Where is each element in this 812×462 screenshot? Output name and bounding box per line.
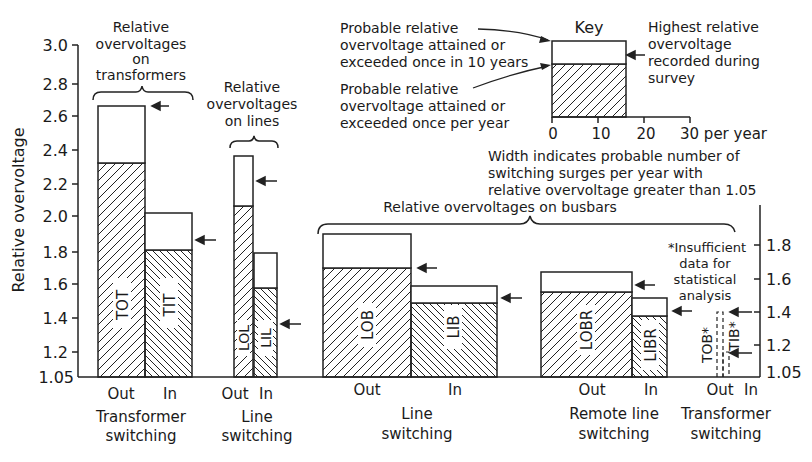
brace-busbars bbox=[318, 216, 735, 234]
width-note: Width indicates probable number of switc… bbox=[488, 148, 757, 198]
svg-text:relative overvoltage greater t: relative overvoltage greater than 1.05 bbox=[488, 182, 757, 198]
svg-text:Out: Out bbox=[578, 381, 605, 399]
svg-text:In: In bbox=[448, 381, 462, 399]
y-axis-label: Relative overvoltage bbox=[9, 127, 28, 292]
brace-lines bbox=[230, 136, 278, 148]
svg-text:3.0: 3.0 bbox=[43, 36, 68, 55]
svg-text:Out: Out bbox=[107, 385, 134, 403]
svg-text:TIT: TIT bbox=[161, 293, 179, 318]
svg-text:2.6: 2.6 bbox=[43, 107, 68, 126]
left-axis-ticks: 3.0 2.8 2.6 2.4 2.2 2.0 1.8 1.6 1.4 1.2 … bbox=[38, 36, 74, 387]
svg-text:Out: Out bbox=[706, 381, 733, 399]
bar-TOB: TOB* bbox=[699, 312, 723, 377]
svg-text:survey: survey bbox=[648, 70, 695, 86]
bar-LIBR: LIBR bbox=[632, 298, 692, 377]
brace-transformers bbox=[93, 86, 193, 100]
svg-text:Out: Out bbox=[221, 385, 248, 403]
svg-text:Line: Line bbox=[401, 405, 432, 423]
svg-text:Remote line: Remote line bbox=[569, 405, 659, 423]
svg-text:LOB: LOB bbox=[359, 310, 377, 340]
svg-text:TOT: TOT bbox=[114, 289, 132, 321]
svg-text:1.05: 1.05 bbox=[38, 368, 74, 387]
svg-text:1.8: 1.8 bbox=[43, 243, 68, 262]
right-axis-ticks: 1.8 1.6 1.4 1.2 1.05 bbox=[766, 236, 802, 382]
svg-text:Line: Line bbox=[241, 408, 272, 426]
svg-text:In: In bbox=[259, 385, 273, 403]
svg-text:overvoltage attained or: overvoltage attained or bbox=[340, 98, 505, 114]
svg-text:Transformer: Transformer bbox=[680, 405, 772, 423]
svg-text:In: In bbox=[163, 385, 177, 403]
svg-text:1.4: 1.4 bbox=[43, 309, 68, 328]
svg-text:0: 0 bbox=[548, 125, 558, 143]
svg-text:2.2: 2.2 bbox=[43, 175, 68, 194]
svg-text:exceeded once in 10 years: exceeded once in 10 years bbox=[340, 54, 528, 70]
svg-text:1.8: 1.8 bbox=[766, 236, 791, 255]
svg-text:data for: data for bbox=[679, 256, 731, 271]
category-busbars-label: Relative overvoltages on busbars bbox=[383, 199, 617, 215]
svg-text:*Insufficient: *Insufficient bbox=[668, 240, 746, 255]
svg-text:on lines: on lines bbox=[225, 113, 279, 129]
svg-text:Transformer: Transformer bbox=[95, 408, 187, 426]
right-axis bbox=[754, 205, 760, 377]
chart-root: Relative overvoltage 3.0 2.8 2.6 2.4 2.2… bbox=[0, 0, 812, 462]
svg-text:on: on bbox=[132, 51, 149, 67]
category-transformers-label: Relative overvoltages on transformers bbox=[96, 19, 187, 83]
svg-text:LIB: LIB bbox=[445, 315, 463, 338]
svg-text:Key: Key bbox=[574, 18, 603, 37]
bar-LIB: LIB bbox=[411, 286, 522, 377]
svg-text:overvoltage attained or: overvoltage attained or bbox=[340, 37, 505, 53]
svg-text:2.8: 2.8 bbox=[43, 75, 68, 94]
svg-text:statistical: statistical bbox=[674, 272, 737, 287]
legend-key: Key 0 10 20 30 per year Highest relative… bbox=[340, 18, 768, 143]
category-lines-label: Relative overvoltages on lines bbox=[207, 79, 298, 129]
svg-text:switching: switching bbox=[105, 427, 176, 445]
svg-text:In: In bbox=[744, 381, 758, 399]
svg-text:20: 20 bbox=[636, 125, 655, 143]
svg-text:overvoltages: overvoltages bbox=[96, 36, 187, 52]
svg-text:30 per year: 30 per year bbox=[680, 125, 768, 143]
svg-text:LOBR: LOBR bbox=[578, 310, 596, 350]
svg-text:Relative: Relative bbox=[113, 19, 169, 35]
svg-text:overvoltages: overvoltages bbox=[207, 96, 298, 112]
svg-text:Probable relative: Probable relative bbox=[340, 20, 458, 36]
bar-LIL: LIL bbox=[254, 253, 301, 377]
svg-text:TOB*: TOB* bbox=[699, 327, 715, 364]
svg-text:Highest relative: Highest relative bbox=[648, 19, 759, 35]
svg-text:LIBR: LIBR bbox=[642, 328, 660, 362]
svg-text:Width indicates probable numbe: Width indicates probable number of bbox=[488, 148, 741, 164]
svg-text:exceeded once per year: exceeded once per year bbox=[340, 115, 510, 131]
svg-text:switching: switching bbox=[690, 425, 761, 443]
svg-text:LOL: LOL bbox=[236, 325, 252, 351]
svg-text:1.2: 1.2 bbox=[766, 336, 791, 355]
svg-text:In: In bbox=[644, 381, 658, 399]
svg-text:2.4: 2.4 bbox=[43, 141, 68, 160]
svg-text:10: 10 bbox=[591, 125, 610, 143]
svg-text:switching surges per year with: switching surges per year with bbox=[488, 165, 703, 181]
sub-labels: Out In Out In Out In Out In Out In bbox=[107, 381, 758, 403]
svg-text:1.6: 1.6 bbox=[766, 270, 791, 289]
svg-text:transformers: transformers bbox=[96, 67, 186, 83]
bar-TIB: TIB* bbox=[723, 308, 752, 377]
svg-text:LIL: LIL bbox=[258, 328, 274, 348]
svg-text:analysis: analysis bbox=[679, 288, 732, 303]
bar-TIT: TIT bbox=[145, 213, 216, 377]
group-labels: Transformer switching Line switching Lin… bbox=[95, 405, 772, 445]
svg-text:overvoltage: overvoltage bbox=[648, 36, 732, 52]
svg-text:1.2: 1.2 bbox=[43, 343, 68, 362]
svg-text:recorded during: recorded during bbox=[648, 53, 760, 69]
svg-text:switching: switching bbox=[578, 425, 649, 443]
svg-text:1.4: 1.4 bbox=[766, 303, 791, 322]
svg-text:Probable relative: Probable relative bbox=[340, 81, 458, 97]
svg-text:TIB*: TIB* bbox=[726, 321, 742, 351]
svg-text:Out: Out bbox=[353, 381, 380, 399]
svg-text:switching: switching bbox=[221, 427, 292, 445]
svg-text:1.05: 1.05 bbox=[766, 363, 802, 382]
insufficient-data-note: *Insufficient data for statistical analy… bbox=[668, 240, 746, 303]
svg-text:1.6: 1.6 bbox=[43, 275, 68, 294]
svg-text:2.0: 2.0 bbox=[43, 207, 68, 226]
svg-text:Relative: Relative bbox=[224, 79, 280, 95]
svg-text:switching: switching bbox=[381, 425, 452, 443]
